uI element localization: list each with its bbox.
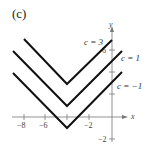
x-tick-label: −6 bbox=[39, 121, 48, 130]
chart-svg: x y −8 −6 −2 6 −2 c = 3 c = 1 c = −1 bbox=[0, 0, 145, 144]
y-axis-label: y bbox=[108, 20, 113, 29]
x-tick-label: −2 bbox=[84, 121, 93, 130]
curve-c-1 bbox=[13, 51, 122, 106]
label-c-minus-1: c = −1 bbox=[117, 81, 142, 91]
x-tick-label: −8 bbox=[17, 121, 26, 130]
y-tick-label: −2 bbox=[98, 135, 107, 144]
label-c-3: c = 3 bbox=[84, 37, 104, 47]
x-axis-label: x bbox=[130, 112, 135, 121]
x-axis: x bbox=[12, 112, 135, 121]
label-c-1: c = 1 bbox=[121, 53, 140, 63]
curve-c-minus-1 bbox=[13, 72, 122, 128]
